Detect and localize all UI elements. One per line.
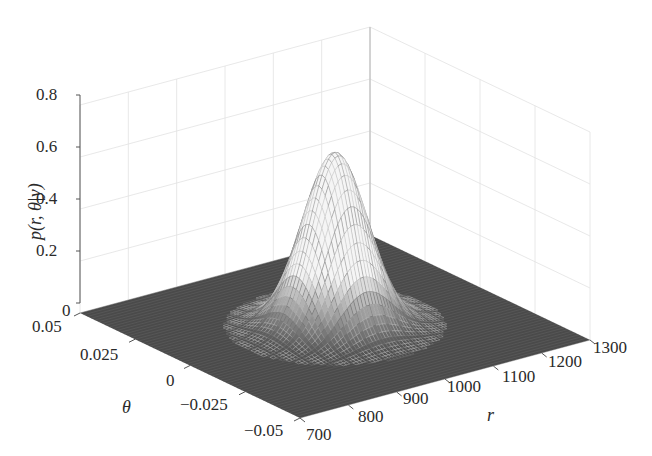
theta-axis-label: θ — [122, 398, 131, 416]
theta-tick-0: 0 — [166, 372, 175, 389]
theta-tick-neg0.025: −0.025 — [180, 396, 228, 413]
r-tick-1300: 1300 — [593, 339, 627, 356]
z-tick-0: 0 — [62, 302, 71, 319]
r-tick-800: 800 — [358, 408, 384, 425]
r-tick-900: 900 — [403, 390, 429, 407]
z-axis-label: p(r, θ|y) — [26, 183, 44, 240]
z-tick-0.6: 0.6 — [36, 138, 57, 155]
theta-tick-0.05: 0.05 — [32, 318, 62, 335]
theta-tick-0.025: 0.025 — [80, 346, 118, 363]
z-tick-0.2: 0.2 — [36, 242, 57, 259]
z-tick-0.8: 0.8 — [36, 86, 57, 103]
r-tick-700: 700 — [306, 426, 332, 443]
surface-plot — [0, 0, 652, 456]
r-tick-1100: 1100 — [502, 368, 535, 385]
r-axis-label: r — [487, 406, 494, 424]
r-tick-1200: 1200 — [548, 353, 582, 370]
r-tick-1000: 1000 — [447, 378, 481, 395]
theta-tick-neg0.05: −0.05 — [244, 422, 283, 439]
